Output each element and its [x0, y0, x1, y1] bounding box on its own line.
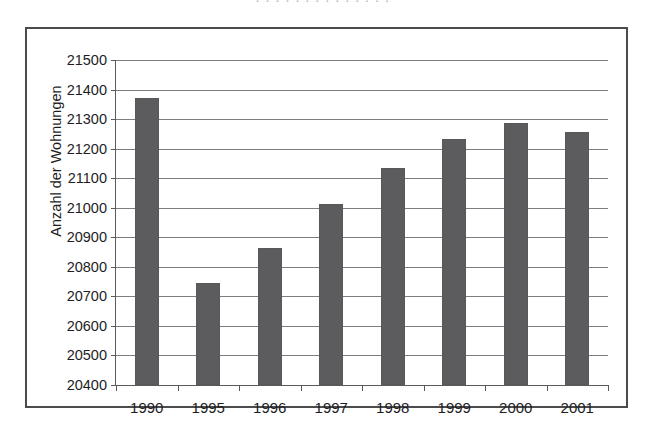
- x-axis-tick-label: 1997: [315, 399, 348, 416]
- gridline: [116, 149, 608, 150]
- x-axis-tick-label: 1990: [130, 399, 163, 416]
- gridline: [116, 178, 608, 179]
- y-tick-mark: [111, 326, 116, 327]
- gridline: [116, 208, 608, 209]
- x-tick-mark: [301, 385, 302, 391]
- y-tick-mark: [111, 296, 116, 297]
- gridline: [116, 119, 608, 120]
- bar: [196, 283, 220, 385]
- y-axis-tick-label: 21100: [68, 170, 107, 186]
- gridline: [116, 60, 608, 61]
- x-tick-mark: [239, 385, 240, 391]
- y-axis-tick-label: 20600: [67, 318, 107, 334]
- bar: [381, 168, 405, 385]
- chart-figure-frame: Anzahl der Wohnungen 2150021400213002120…: [25, 27, 628, 408]
- plot-background: [116, 60, 608, 385]
- y-axis-tick-label: 20900: [67, 229, 107, 245]
- y-tick-mark: [111, 267, 116, 268]
- gridline: [116, 90, 608, 91]
- bar: [135, 98, 159, 385]
- x-tick-mark: [116, 385, 117, 391]
- y-axis-tick-label: 21400: [67, 82, 107, 98]
- x-tick-mark: [178, 385, 179, 391]
- gridline: [116, 237, 608, 238]
- y-axis-tick-label: 21000: [67, 200, 107, 216]
- y-axis-tick-label: 21500: [67, 52, 107, 68]
- y-axis-tick-label: 21200: [67, 141, 107, 157]
- y-tick-mark: [111, 237, 116, 238]
- x-tick-mark: [547, 385, 548, 391]
- bar: [504, 123, 528, 385]
- x-axis-tick-label: 1999: [438, 399, 471, 416]
- x-tick-mark: [608, 385, 609, 391]
- x-tick-mark: [424, 385, 425, 391]
- bar: [442, 139, 466, 385]
- bar: [258, 248, 282, 385]
- x-axis-tick-label: 2000: [499, 399, 532, 416]
- y-axis-tick-label: 20500: [67, 347, 107, 363]
- gridline: [116, 355, 608, 356]
- y-tick-mark: [111, 119, 116, 120]
- x-axis-tick-label: 1996: [253, 399, 286, 416]
- y-tick-mark: [111, 178, 116, 179]
- x-axis-tick-label: 2001: [561, 399, 594, 416]
- y-axis-tick-label: 20800: [67, 259, 107, 275]
- x-tick-mark: [362, 385, 363, 391]
- y-tick-mark: [111, 149, 116, 150]
- bar: [565, 132, 589, 386]
- gridline: [116, 326, 608, 327]
- cut-off-header-text: · · · · · · · · · · · · · ·: [0, 0, 645, 7]
- y-axis-tick-label: 20400: [67, 377, 107, 393]
- x-axis-tick-label: 1998: [376, 399, 409, 416]
- y-tick-mark: [111, 208, 116, 209]
- y-tick-mark: [111, 90, 116, 91]
- x-axis-tick-label: 1995: [192, 399, 225, 416]
- gridline: [116, 296, 608, 297]
- gridline: [116, 267, 608, 268]
- y-axis-tick-label: 20700: [67, 288, 107, 304]
- y-tick-mark: [111, 355, 116, 356]
- y-axis-tick-label: 21300: [67, 111, 107, 127]
- plot-area: 2150021400213002120021100210002090020800…: [115, 60, 608, 386]
- x-tick-mark: [485, 385, 486, 391]
- bar: [319, 204, 343, 385]
- y-tick-mark: [111, 60, 116, 61]
